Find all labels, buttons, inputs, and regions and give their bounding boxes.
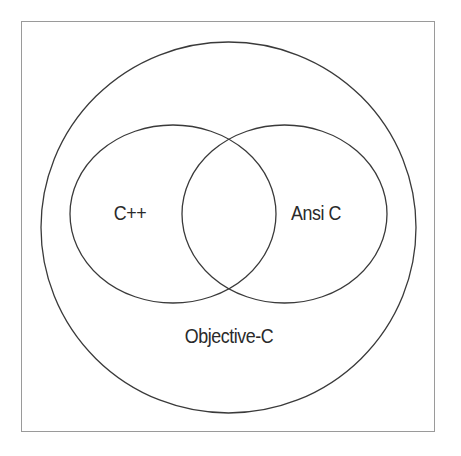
objective-c-label: Objective-C xyxy=(185,324,274,348)
objective-c-ellipse xyxy=(41,42,416,413)
cpp-label: C++ xyxy=(114,201,146,225)
cpp-ellipse xyxy=(70,125,276,303)
ansi-c-ellipse xyxy=(182,125,387,303)
venn-diagram xyxy=(0,0,461,456)
ansi-c-label: Ansi C xyxy=(291,201,341,225)
